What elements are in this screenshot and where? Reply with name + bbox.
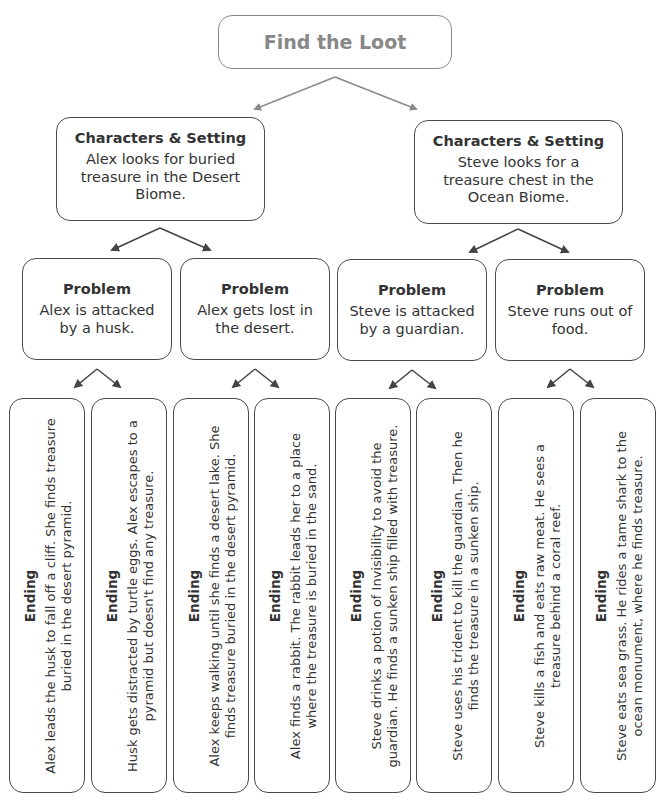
title-node: Find the Loot: [218, 15, 452, 69]
ending-node-3: Ending Alex keeps walking until she find…: [173, 398, 249, 793]
ending-text: Steve uses his trident to kill the guard…: [450, 416, 481, 776]
ending-text: Alex finds a rabbit. The rabbit leads he…: [288, 416, 319, 776]
setting-node-steve: Characters & Setting Steve looks for a t…: [414, 120, 623, 224]
setting-node-alex: Characters & Setting Alex looks for buri…: [56, 117, 265, 221]
setting-text: Steve looks for a treasure chest in the …: [415, 154, 622, 207]
problem-heading: Problem: [496, 280, 644, 300]
ending-node-1: Ending Alex leads the husk to fall off a…: [9, 398, 85, 793]
ending-text: Alex keeps walking until she finds a des…: [207, 416, 238, 776]
ending-heading: Ending: [510, 416, 528, 776]
ending-heading: Ending: [103, 416, 121, 776]
setting-arrows: [112, 228, 568, 252]
ending-heading: Ending: [592, 416, 610, 776]
ending-node-6: Ending Steve uses his trident to kill th…: [416, 398, 492, 793]
title-arrows: [255, 77, 416, 109]
problem-arrows: [75, 369, 593, 388]
ending-heading: Ending: [266, 416, 284, 776]
problem-text: Alex is attacked by a husk.: [23, 302, 171, 337]
problem-node-husk: Problem Alex is attacked by a husk.: [22, 258, 172, 360]
ending-node-7: Ending Steve kills a fish and eats raw m…: [498, 398, 574, 793]
problem-text: Alex gets lost in the desert.: [181, 302, 329, 337]
ending-text: Alex leads the husk to fall off a cliff.…: [43, 416, 74, 776]
problem-node-lost: Problem Alex gets lost in the desert.: [180, 258, 330, 360]
diagram-title: Find the Loot: [264, 31, 407, 53]
setting-heading: Characters & Setting: [415, 131, 622, 151]
ending-text: Steve eats sea grass. He rides a tame sh…: [614, 416, 645, 776]
ending-node-8: Ending Steve eats sea grass. He rides a …: [580, 398, 656, 793]
problem-text: Steve is attacked by a guardian.: [338, 303, 486, 338]
problem-heading: Problem: [338, 280, 486, 300]
ending-node-4: Ending Alex finds a rabbit. The rabbit l…: [254, 398, 330, 793]
ending-heading: Ending: [21, 416, 39, 776]
ending-node-5: Ending Steve drinks a potion of Invisibi…: [335, 398, 411, 793]
setting-heading: Characters & Setting: [57, 128, 264, 148]
setting-text: Alex looks for buried treasure in the De…: [57, 151, 264, 204]
ending-node-2: Ending Husk gets distracted by turtle eg…: [91, 398, 167, 793]
problem-node-guardian: Problem Steve is attacked by a guardian.: [337, 259, 487, 361]
ending-heading: Ending: [347, 416, 365, 776]
problem-heading: Problem: [181, 279, 329, 299]
problem-node-food: Problem Steve runs out of food.: [495, 259, 645, 361]
problem-text: Steve runs out of food.: [496, 303, 644, 338]
ending-heading: Ending: [185, 416, 203, 776]
ending-text: Husk gets distracted by turtle eggs. Ale…: [125, 416, 156, 776]
ending-heading: Ending: [428, 416, 446, 776]
ending-text: Steve drinks a potion of Invisibility to…: [369, 416, 400, 776]
ending-text: Steve kills a fish and eats raw meat. He…: [532, 416, 563, 776]
problem-heading: Problem: [23, 279, 171, 299]
